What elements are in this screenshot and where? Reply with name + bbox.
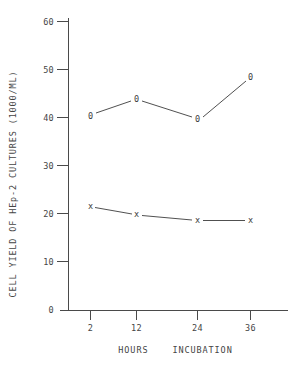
x-tick-label-24: 24 (192, 323, 203, 333)
series-0-marker-4: 0 (248, 72, 253, 82)
x-tick-label-12: 12 (131, 323, 142, 333)
x-axis-title: HOURS INCUBATION (118, 345, 232, 355)
series-x-segment-1 (95, 208, 132, 215)
series-0-segment-1 (96, 101, 131, 113)
series-x-marker-3: x (195, 215, 200, 225)
chart-figure: CELL YIELD OF HEp-2 CULTURES (1000/ML) 6… (0, 0, 303, 367)
series-0-segment-2 (142, 101, 192, 117)
series-x-marker-1: x (88, 201, 93, 211)
series-x-segment-2 (142, 216, 192, 221)
series-0-segment-3 (203, 81, 246, 117)
y-tick-label-40: 40 (43, 113, 54, 123)
y-tick-label-60: 60 (43, 17, 54, 27)
y-tick-label-50: 50 (43, 65, 54, 75)
series-0-marker-1: 0 (88, 111, 93, 121)
y-tick-label-10: 10 (43, 257, 54, 267)
series-0-marker-3: 0 (195, 114, 200, 124)
plot-area: 60 50 40 30 20 10 0 2 12 24 36 0 0 0 0 x… (0, 0, 303, 367)
y-tick-label-30: 30 (43, 161, 54, 171)
y-tick-label-20: 20 (43, 209, 54, 219)
series-0-marker-2: 0 (134, 94, 139, 104)
series-x-marker-2: x (134, 209, 139, 219)
y-tick-label-0: 0 (49, 305, 54, 315)
x-axis-title-container: HOURS INCUBATION (68, 338, 283, 357)
x-tick-label-36: 36 (245, 323, 256, 333)
x-tick-label-2: 2 (88, 323, 93, 333)
series-x-marker-4: x (248, 215, 253, 225)
